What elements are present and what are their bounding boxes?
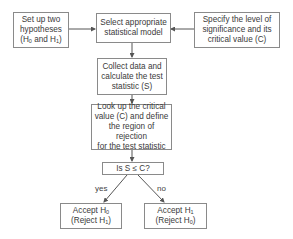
model-box: Select appropriate statistical model [96, 13, 171, 43]
lookup-line4: for the test statistic [94, 142, 169, 152]
yes-label: yes [95, 184, 107, 193]
hypotheses-line2: hypotheses [20, 25, 62, 35]
lookup-line3: the region of rejection [94, 122, 169, 142]
accept-h0-line1: Accept H0 [71, 206, 111, 216]
lookup-line2: value (C) and define [94, 112, 169, 122]
hypotheses-box: Set up two hypotheses (H0 and H1) [13, 12, 69, 48]
hypotheses-line1: Set up two [20, 15, 62, 25]
model-line2: statistical model [100, 28, 166, 38]
significance-line3: critical value (C) [202, 35, 271, 45]
accept-h0-box: Accept H0 (Reject H1) [60, 203, 122, 229]
accept-h1-line2: (Reject H0) [156, 216, 196, 226]
no-label: no [157, 184, 166, 193]
accept-h1-line1: Accept H1 [156, 206, 196, 216]
accept-h1-box: Accept H1 (Reject H0) [144, 203, 207, 229]
significance-box: Specify the level of significance and it… [194, 12, 280, 48]
hypotheses-line3: (H0 and H1) [20, 35, 62, 45]
significance-line2: significance and its [202, 25, 271, 35]
collect-line1: Collect data and [101, 62, 162, 72]
accept-h0-line2: (Reject H1) [71, 216, 111, 226]
model-line1: Select appropriate [100, 18, 166, 28]
lookup-box: Look up the critical value (C) and defin… [91, 104, 172, 150]
decision-label: Is S ≤ C? [116, 164, 150, 174]
significance-line1: Specify the level of [202, 15, 271, 25]
collect-line2: calculate the test [101, 72, 162, 82]
lookup-line1: Look up the critical [94, 102, 169, 112]
decision-box: Is S ≤ C? [102, 162, 164, 175]
collect-box: Collect data and calculate the test stat… [97, 58, 167, 95]
collect-line3: statistic (S) [101, 82, 162, 92]
